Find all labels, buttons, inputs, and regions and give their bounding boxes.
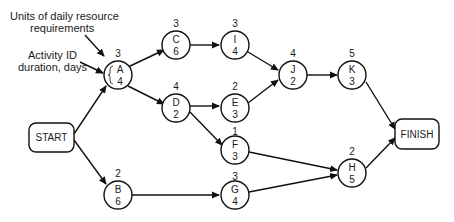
activity-node-j: 4 J 2 xyxy=(279,48,307,89)
edge-g-h xyxy=(249,175,337,192)
resources-h: 2 xyxy=(349,146,355,157)
duration-e: 3 xyxy=(232,109,238,120)
id-e: E xyxy=(232,97,239,108)
resources-c: 3 xyxy=(173,18,179,29)
id-c: C xyxy=(172,34,179,45)
id-k: K xyxy=(349,64,356,75)
start-label: START xyxy=(36,132,68,143)
id-a: A xyxy=(117,64,124,75)
duration-b: 6 xyxy=(115,196,121,207)
id-b: B xyxy=(115,184,122,195)
resources-e: 2 xyxy=(232,81,238,92)
duration-i: 4 xyxy=(232,46,238,57)
finish-label: FINISH xyxy=(401,129,434,140)
activity-node-b: 2 B 6 xyxy=(104,168,132,209)
id-j: J xyxy=(291,64,296,75)
resources-g: 3 xyxy=(232,171,238,182)
resources-i: 3 xyxy=(232,18,238,29)
edge-k-finish xyxy=(366,82,395,129)
pointer-resource xyxy=(85,35,104,56)
edge-a-c xyxy=(128,50,164,67)
edge-start-a xyxy=(74,86,106,134)
activity-node-k: 5 K 3 xyxy=(338,48,366,89)
annotation-resource-line2: requirements xyxy=(30,22,95,34)
id-d: D xyxy=(172,97,179,108)
annotation-activity-line2: duration, days xyxy=(18,61,88,73)
duration-k: 3 xyxy=(349,76,355,87)
start-node: START xyxy=(29,123,74,152)
activity-node-i: 3 I 4 xyxy=(221,18,249,59)
duration-f: 3 xyxy=(232,151,238,162)
annotation-activity-line1: Activity ID xyxy=(28,49,77,61)
edge-a-d xyxy=(128,86,164,104)
id-i: I xyxy=(234,34,237,45)
activity-node-g: 3 G 4 xyxy=(221,171,249,209)
activity-node-f: 1 F 3 xyxy=(221,126,249,164)
resources-f: 1 xyxy=(232,126,238,137)
resources-d: 4 xyxy=(173,81,179,92)
duration-a: 4 xyxy=(117,76,123,87)
network-diagram: Units of daily resource requirements Act… xyxy=(0,0,454,222)
duration-h: 5 xyxy=(349,174,355,185)
edge-d-f xyxy=(190,112,222,145)
activity-node-c: 3 C 6 xyxy=(162,18,190,59)
duration-d: 2 xyxy=(173,109,179,120)
edge-start-b xyxy=(74,140,106,184)
duration-c: 6 xyxy=(173,46,179,57)
duration-g: 4 xyxy=(232,196,238,207)
id-h: H xyxy=(348,162,355,173)
resources-k: 5 xyxy=(349,48,355,59)
edge-h-finish xyxy=(366,138,395,168)
activity-node-d: 4 D 2 xyxy=(162,81,190,122)
duration-j: 2 xyxy=(290,76,296,87)
edge-f-h xyxy=(249,152,337,170)
id-g: G xyxy=(231,184,239,195)
resources-j: 4 xyxy=(290,48,296,59)
edge-i-j xyxy=(248,52,278,70)
id-f: F xyxy=(232,139,238,150)
edge-e-j xyxy=(248,80,278,103)
activity-node-e: 2 E 3 xyxy=(221,81,249,122)
activity-node-a: 3 A 4 xyxy=(104,48,132,89)
resources-b: 2 xyxy=(115,168,121,179)
annotation-resource-line1: Units of daily resource xyxy=(10,10,119,22)
resources-a: 3 xyxy=(115,48,121,59)
activity-node-h: 2 H 5 xyxy=(338,146,366,187)
finish-node: FINISH xyxy=(395,119,439,149)
